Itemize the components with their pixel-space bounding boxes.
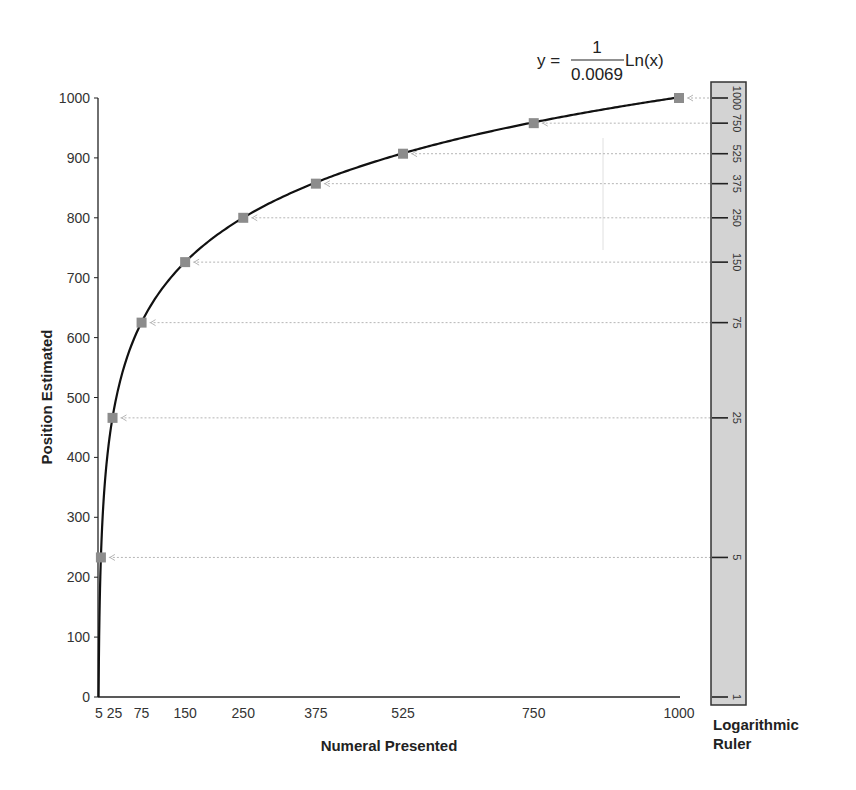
- equation-lhs: y =: [537, 51, 560, 70]
- ruler-title-line2: Ruler: [713, 735, 752, 752]
- x-tick-label: 75: [134, 705, 150, 721]
- y-tick-label: 1000: [59, 90, 90, 106]
- data-point-marker: [180, 257, 190, 267]
- x-tick-label: 25: [107, 705, 123, 721]
- data-points: [96, 93, 684, 562]
- x-tick-label: 375: [304, 705, 328, 721]
- x-axis-ticks: 525751502503755257501000: [95, 705, 695, 721]
- y-tick-label: 300: [67, 509, 91, 525]
- x-tick-label: 5: [95, 705, 103, 721]
- x-tick-label: 250: [232, 705, 256, 721]
- y-tick-label: 800: [67, 210, 91, 226]
- ruler-label: 750: [731, 114, 743, 132]
- y-tick-label: 0: [82, 689, 90, 705]
- y-tick-label: 200: [67, 569, 91, 585]
- x-tick-label: 150: [173, 705, 197, 721]
- data-point-marker: [238, 213, 248, 223]
- ruler-label: 375: [731, 174, 743, 192]
- ruler-label: 525: [731, 145, 743, 163]
- x-tick-label: 1000: [663, 705, 694, 721]
- data-point-marker: [96, 552, 106, 562]
- log-estimation-chart: y = 1 0.0069 Ln(x) 010020030040050060070…: [0, 0, 856, 790]
- y-axis-ticks: 01002003004005006007008009001000: [59, 90, 98, 705]
- ruler-label: 150: [731, 253, 743, 271]
- equation-numerator: 1: [592, 38, 601, 57]
- equation-denominator: 0.0069: [571, 65, 623, 84]
- data-point-marker: [311, 179, 321, 189]
- data-point-marker: [137, 318, 147, 328]
- ruler-label: 1: [731, 694, 743, 700]
- ruler-label: 250: [731, 209, 743, 227]
- data-point-marker: [529, 118, 539, 128]
- x-axis-title: Numeral Presented: [321, 737, 458, 754]
- y-tick-label: 700: [67, 270, 91, 286]
- x-tick-label: 525: [391, 705, 415, 721]
- equation: y = 1 0.0069 Ln(x): [537, 38, 664, 84]
- y-axis-title: Position Estimated: [38, 329, 55, 464]
- logarithmic-ruler: 1000750525375250150752551 Logarithmic Ru…: [711, 82, 799, 752]
- data-point-marker: [398, 149, 408, 159]
- guide-lines: [109, 95, 712, 560]
- ruler-label: 25: [731, 412, 743, 424]
- ruler-label: 75: [731, 317, 743, 329]
- axes: [98, 98, 680, 697]
- equation-rhs: Ln(x): [625, 51, 664, 70]
- y-tick-label: 600: [67, 330, 91, 346]
- log-curve: [99, 97, 679, 697]
- data-point-marker: [674, 93, 684, 103]
- ruler-label: 1000: [731, 86, 743, 110]
- ruler-label: 5: [731, 554, 743, 560]
- y-tick-label: 400: [67, 449, 91, 465]
- y-tick-label: 100: [67, 629, 91, 645]
- ruler-title-line1: Logarithmic: [713, 716, 799, 733]
- y-tick-label: 900: [67, 150, 91, 166]
- data-point-marker: [108, 413, 118, 423]
- x-tick-label: 750: [522, 705, 546, 721]
- y-tick-label: 500: [67, 390, 91, 406]
